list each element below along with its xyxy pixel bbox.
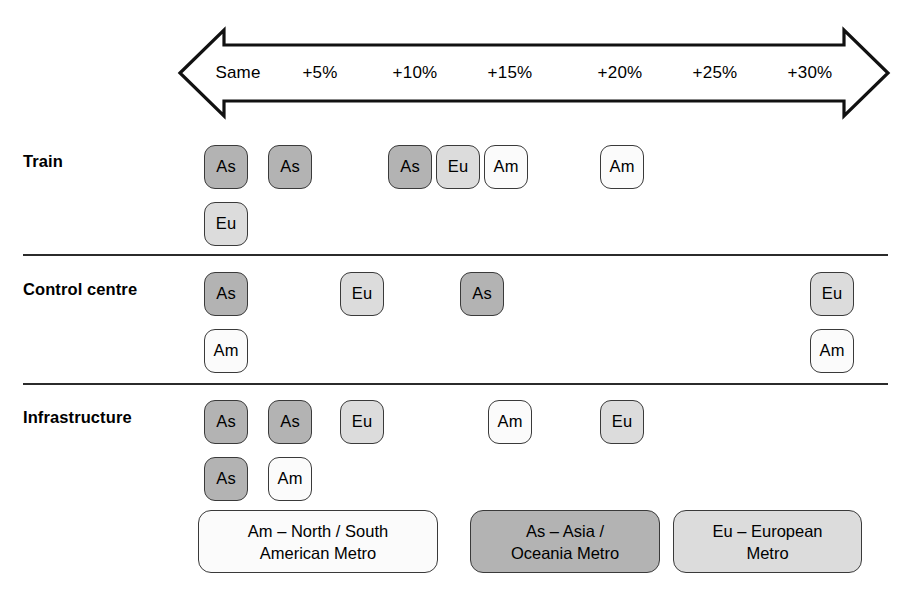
metro-chip-as: As	[268, 145, 312, 189]
metro-chip-am: Am	[488, 400, 532, 444]
row-separator-1	[23, 254, 888, 256]
metro-chip-am: Am	[600, 145, 644, 189]
metro-chip-as: As	[268, 400, 312, 444]
metro-chip-as: As	[204, 272, 248, 316]
metro-chip-am: Am	[484, 145, 528, 189]
metro-chip-eu: Eu	[204, 202, 248, 246]
metro-chip-eu: Eu	[340, 400, 384, 444]
metro-chip-eu: Eu	[436, 145, 480, 189]
row-label-infrastructure: Infrastructure	[23, 408, 132, 427]
metro-chip-as: As	[204, 400, 248, 444]
metro-chip-am: Am	[810, 329, 854, 373]
metro-chip-am: Am	[204, 329, 248, 373]
metro-chip-eu: Eu	[600, 400, 644, 444]
scale-arrow-banner	[176, 26, 892, 120]
metro-chip-as: As	[204, 457, 248, 501]
legend-item-am: Am – North / South American Metro	[198, 510, 438, 573]
metro-chip-as: As	[388, 145, 432, 189]
row-label-control-centre: Control centre	[23, 280, 137, 299]
row-label-train: Train	[23, 152, 63, 171]
metro-chip-as: As	[204, 145, 248, 189]
metro-chip-as: As	[460, 272, 504, 316]
metro-chip-am: Am	[268, 457, 312, 501]
legend-item-as: As – Asia / Oceania Metro	[470, 510, 660, 573]
metro-chip-eu: Eu	[810, 272, 854, 316]
metro-chip-eu: Eu	[340, 272, 384, 316]
row-separator-2	[23, 383, 888, 385]
legend-item-eu: Eu – European Metro	[673, 510, 862, 573]
